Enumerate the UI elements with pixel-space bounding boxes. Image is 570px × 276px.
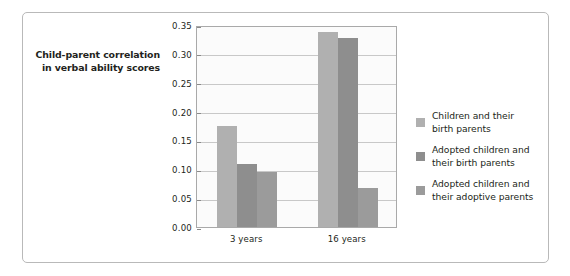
y-axis-tick-label: 0.35: [152, 21, 192, 31]
y-axis-tick-label: 0.20: [152, 108, 192, 118]
y-axis-tick-label: 0.30: [152, 50, 192, 60]
y-axis-tick-mark: [197, 171, 201, 172]
y-axis-tick-mark: [197, 55, 201, 56]
y-axis-tick-labels: 0.000.050.100.150.200.250.300.35: [148, 26, 192, 228]
figure-container: Child-parent correlation in verbal abili…: [0, 0, 570, 276]
legend-label: Adopted children and their birth parents: [432, 144, 529, 169]
y-axis-tick-label: 0.10: [152, 165, 192, 175]
y-axis-tick-mark: [197, 200, 201, 201]
legend-item: Adopted children and their adoptive pare…: [416, 178, 533, 203]
y-axis-tick-mark: [197, 142, 201, 143]
x-axis-category-label: 16 years: [307, 234, 387, 244]
legend-swatch: [416, 152, 425, 161]
y-axis-tick-mark: [197, 27, 201, 28]
bar: [237, 164, 257, 227]
y-axis-tick-mark: [197, 229, 201, 230]
legend-label: Children and their birth parents: [432, 110, 514, 135]
bar: [217, 126, 237, 227]
y-axis-title: Child-parent correlation in verbal abili…: [28, 48, 160, 75]
legend-swatch: [416, 186, 425, 195]
y-axis-tick-mark: [197, 84, 201, 85]
x-axis-category-label: 3 years: [206, 234, 286, 244]
legend-label: Adopted children and their adoptive pare…: [432, 178, 533, 203]
y-axis-tick-label: 0.00: [152, 223, 192, 233]
gridline: [197, 84, 396, 85]
gridline: [197, 113, 396, 114]
bar: [338, 38, 358, 227]
y-axis-tick-label: 0.15: [152, 136, 192, 146]
plot-area: [196, 26, 397, 228]
bar: [257, 172, 277, 227]
legend-item: Adopted children and their birth parents: [416, 144, 533, 169]
legend-item: Children and their birth parents: [416, 110, 533, 135]
legend: Children and their birth parentsAdopted …: [416, 110, 533, 212]
y-axis-tick-label: 0.25: [152, 79, 192, 89]
bar: [318, 32, 338, 227]
gridline: [197, 55, 396, 56]
y-axis-tick-mark: [197, 113, 201, 114]
legend-swatch: [416, 118, 425, 127]
y-axis-tick-label: 0.05: [152, 194, 192, 204]
bar: [358, 188, 378, 227]
